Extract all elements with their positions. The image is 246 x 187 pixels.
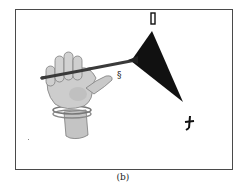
triangle-shape	[131, 31, 183, 102]
bottom-marker-icon	[185, 116, 194, 130]
rod-marker-icon: §	[117, 70, 122, 80]
hand-triangle-illustration: §	[0, 0, 246, 187]
speck	[28, 139, 29, 140]
figure-caption: (b)	[0, 172, 246, 182]
top-marker-icon	[151, 13, 155, 24]
